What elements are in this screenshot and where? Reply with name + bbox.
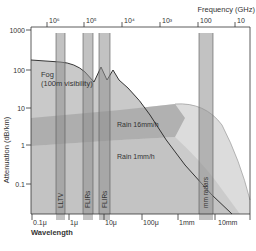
y-tick-10: 10 xyxy=(17,105,25,112)
band-flirs-1-label: FLIRs xyxy=(84,190,91,208)
fog-label-line2: (100m visibility) xyxy=(41,79,93,88)
rain-1mmh-label: Rain 1mm/h xyxy=(117,153,155,160)
x-axis-label: Wavelength xyxy=(31,228,73,237)
band-lltv-label: LLTV xyxy=(57,192,64,208)
top-tick-1e5: 10⁵ xyxy=(86,17,97,24)
top-tick-10: 10 xyxy=(237,17,245,24)
top-tick-100: 100 xyxy=(200,17,212,24)
fog-label-line1: Fog xyxy=(41,70,54,79)
band-mm-radars-label: mm radars xyxy=(202,176,209,208)
x-tick-100u: 100μ xyxy=(143,219,159,227)
band-lltv xyxy=(56,33,65,220)
y-axis-label: Attenuation (dB/km) xyxy=(2,116,11,183)
top-tick-1e4: 10⁴ xyxy=(124,17,135,24)
top-tick-1e6: 10⁶ xyxy=(49,17,60,24)
x-tick-10mm: 10mm xyxy=(218,219,238,226)
y-tick-0.1: 0.1 xyxy=(15,181,25,188)
rain-16mmh-label: Rain 16mm/h xyxy=(117,121,159,128)
y-ticks xyxy=(26,30,31,184)
x-tick-0.1u: 0.1μ xyxy=(33,219,47,227)
top-tick-1e3: 10³ xyxy=(162,17,173,24)
x-tick-10u: 10μ xyxy=(105,219,117,227)
x-tick-1u: 1μ xyxy=(70,219,78,227)
attenuation-chart: 1000 100 10 1 0.1 Attenuation (dB/km) 10… xyxy=(0,0,256,251)
y-tick-1000: 1000 xyxy=(9,27,25,34)
y-tick-100: 100 xyxy=(13,67,25,74)
y-tick-1: 1 xyxy=(21,142,25,149)
top-axis-label: Frequency (GHz) xyxy=(197,5,255,14)
band-flirs-2-label: FLIRs xyxy=(101,190,108,208)
x-tick-1mm: 1mm xyxy=(179,219,195,226)
